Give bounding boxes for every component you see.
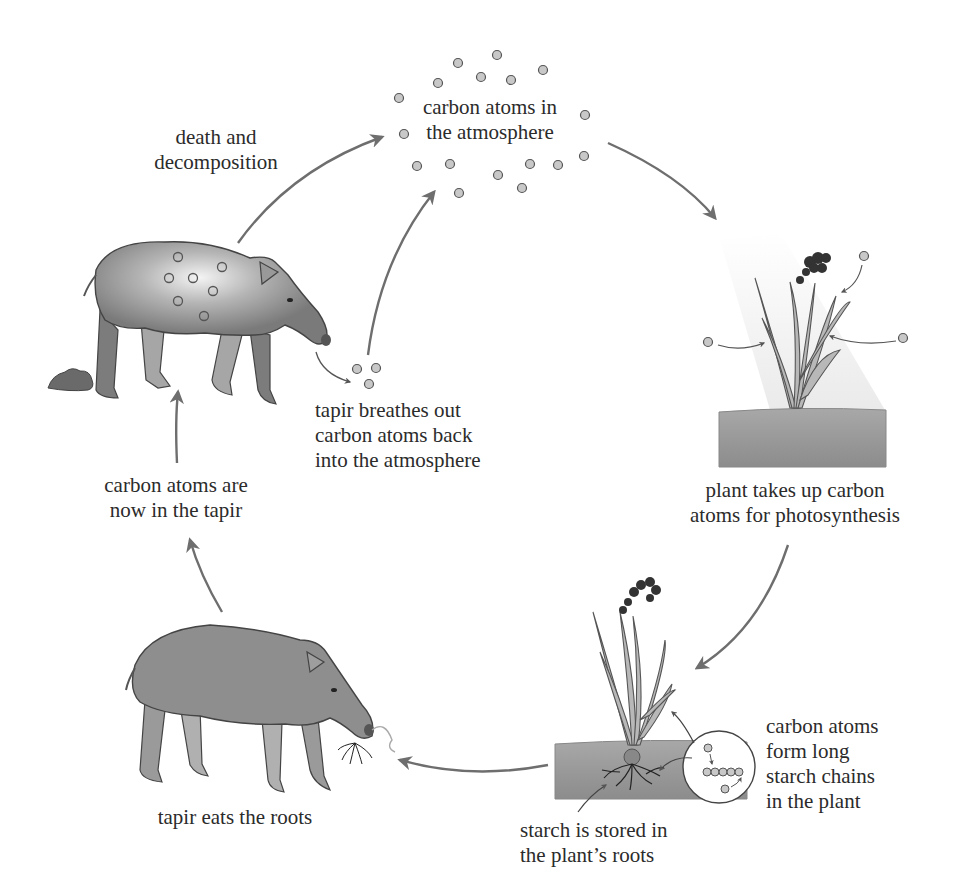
label-carbon-in-tapir: carbon atoms are now in the tapir bbox=[88, 473, 264, 523]
label-tapir-breathes: tapir breathes out carbon atoms back int… bbox=[315, 398, 481, 473]
label-breathes-line3: into the atmosphere bbox=[315, 448, 481, 473]
label-starch-stored: starch is stored in the plant’s roots bbox=[520, 818, 668, 868]
tapir-with-carbon-atoms-icon bbox=[48, 242, 331, 404]
label-starch-stored-line1: starch is stored in bbox=[520, 818, 668, 843]
label-starch-chains: carbon atoms form long starch chains in … bbox=[766, 714, 879, 814]
label-starch-chains-line3: starch chains bbox=[766, 764, 879, 789]
label-atmosphere-line2: the atmosphere bbox=[407, 120, 573, 145]
label-atmosphere: carbon atoms in the atmosphere bbox=[407, 95, 573, 145]
label-starch-chains-line4: in the plant bbox=[766, 789, 879, 814]
exhaled-carbon-atoms-icon bbox=[316, 352, 381, 389]
label-plant-uptake-line1: plant takes up carbon bbox=[680, 478, 910, 503]
carbon-cycle-diagram: carbon atoms in the atmosphere death and… bbox=[0, 0, 961, 895]
arrow-roots-to-tapir bbox=[400, 760, 548, 771]
label-starch-chains-line2: form long bbox=[766, 739, 879, 764]
label-tapir-eats: tapir eats the roots bbox=[140, 805, 330, 830]
label-starch-stored-line2: the plant’s roots bbox=[520, 843, 668, 868]
label-in-tapir-line1: carbon atoms are bbox=[88, 473, 264, 498]
soil bbox=[719, 408, 886, 467]
label-breathes-line2: carbon atoms back bbox=[315, 423, 481, 448]
label-death-line2: decomposition bbox=[148, 150, 284, 175]
label-plant-uptake: plant takes up carbon atoms for photosyn… bbox=[680, 478, 910, 528]
arrow-atmosphere-to-plant bbox=[608, 143, 715, 218]
arrow-plant-to-roots bbox=[697, 545, 788, 668]
label-plant-uptake-line2: atoms for photosynthesis bbox=[680, 503, 910, 528]
arrow-carbon-in-tapir-to-tapir bbox=[176, 392, 178, 463]
seed-head bbox=[619, 577, 661, 614]
label-death-line1: death and bbox=[148, 125, 284, 150]
arrow-tapir-eats-to-carbon-in-tapir bbox=[190, 540, 222, 612]
dung-icon bbox=[48, 369, 93, 391]
label-atmosphere-line1: carbon atoms in bbox=[407, 95, 573, 120]
label-death-decomposition: death and decomposition bbox=[148, 125, 284, 175]
label-starch-chains-line1: carbon atoms bbox=[766, 714, 879, 739]
plant-with-roots-icon bbox=[555, 577, 755, 812]
label-breathes-line1: tapir breathes out bbox=[315, 398, 481, 423]
seed-head bbox=[796, 252, 831, 284]
label-in-tapir-line2: now in the tapir bbox=[88, 498, 264, 523]
label-tapir-eats-line1: tapir eats the roots bbox=[140, 805, 330, 830]
tapir-eating-roots-icon bbox=[126, 625, 395, 792]
arrow-breathing-to-atmosphere bbox=[368, 192, 434, 355]
plant-photosynthesis-icon bbox=[704, 232, 908, 467]
